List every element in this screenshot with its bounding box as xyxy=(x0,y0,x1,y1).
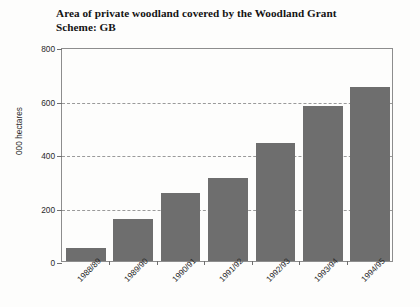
y-tick-400 xyxy=(57,156,62,157)
y-tick-800 xyxy=(57,49,62,50)
y-axis-title: 000 hectares xyxy=(14,107,24,155)
x-tick-4 xyxy=(299,261,300,265)
gridline-600 xyxy=(62,103,392,104)
x-tick-2 xyxy=(204,261,205,265)
bar-1994-95 xyxy=(350,87,390,261)
bar-1993-94 xyxy=(303,106,343,261)
y-tick-600 xyxy=(57,103,62,104)
chart-title: Area of private woodland covered by the … xyxy=(56,7,366,34)
y-tick-label-600: 600 xyxy=(41,98,55,108)
y-tick-label-400: 400 xyxy=(41,151,55,161)
bar-1991-92 xyxy=(208,178,248,261)
x-tick-0 xyxy=(109,261,110,265)
bar-1990-91 xyxy=(161,193,201,261)
x-tick-3 xyxy=(252,261,253,265)
y-tick-label-200: 200 xyxy=(41,205,55,215)
bar-1992-93 xyxy=(256,143,296,261)
x-tick-1 xyxy=(157,261,158,265)
x-tick-5 xyxy=(347,261,348,265)
y-tick-0 xyxy=(57,263,62,264)
bar-1989-90 xyxy=(113,219,153,261)
y-tick-label-0: 0 xyxy=(50,258,55,268)
y-tick-label-800: 800 xyxy=(41,44,55,54)
chart-figure: Area of private woodland covered by the … xyxy=(0,0,420,307)
plot-area: 0200400600800 1988/891989/901990/911991/… xyxy=(61,48,393,262)
y-tick-200 xyxy=(57,210,62,211)
